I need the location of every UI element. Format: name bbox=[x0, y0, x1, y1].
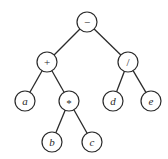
tree-edges bbox=[30, 29, 146, 133]
tree-node-a: a bbox=[15, 91, 35, 111]
edge-root-plus bbox=[54, 29, 80, 55]
tree-node-div: / bbox=[118, 52, 138, 72]
tree-node-plus: + bbox=[37, 52, 57, 72]
node-label: d bbox=[110, 95, 116, 107]
edge-plus-a bbox=[30, 71, 42, 93]
edge-plus-mul bbox=[52, 71, 64, 93]
node-label: * bbox=[66, 97, 72, 109]
edge-div-e bbox=[133, 71, 146, 93]
expression-tree-diagram: −+/a*debc bbox=[0, 0, 168, 159]
edge-mul-b bbox=[56, 110, 65, 133]
node-label: c bbox=[90, 136, 95, 148]
node-label: e bbox=[149, 95, 154, 107]
node-label: + bbox=[44, 56, 50, 68]
edge-root-div bbox=[94, 29, 121, 55]
node-label: b bbox=[49, 136, 55, 148]
node-label: a bbox=[22, 95, 28, 107]
tree-node-c: c bbox=[82, 132, 102, 152]
tree-node-root: − bbox=[77, 12, 97, 32]
tree-node-d: d bbox=[103, 91, 123, 111]
tree-node-mul: * bbox=[59, 91, 79, 111]
edge-mul-c bbox=[74, 110, 87, 134]
edge-div-d bbox=[117, 71, 125, 91]
node-label: − bbox=[84, 16, 90, 28]
tree-node-b: b bbox=[42, 132, 62, 152]
tree-node-e: e bbox=[141, 91, 161, 111]
